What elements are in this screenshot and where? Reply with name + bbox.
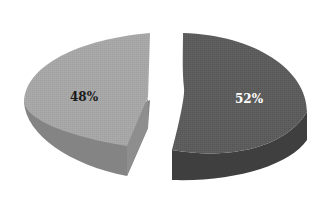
slice-label-52: 52% [235,92,264,106]
pie-chart: 48% 52% [0,0,327,203]
pie-slice-48 [24,33,150,176]
slice-label-48: 48% [70,90,99,104]
pie-slice-52 [172,33,307,180]
